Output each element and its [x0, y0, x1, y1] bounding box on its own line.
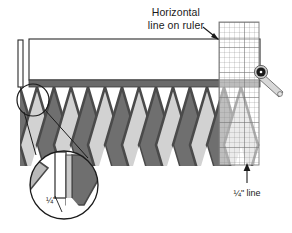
cutter-handle-end — [278, 92, 283, 97]
quarter-inch-line-callout: ¼" line — [233, 163, 260, 198]
zoom-measure-label: ¼" — [46, 195, 56, 205]
figure-svg: Horizontal line on ruler ¼" line — [0, 0, 292, 233]
illustration-canvas: Horizontal line on ruler ¼" line — [0, 0, 292, 233]
horizontal-line-label-line1: Horizontal — [152, 6, 200, 18]
horizontal-line-label-line2: line on ruler — [148, 19, 205, 31]
zoom-diamond-mid — [66, 155, 72, 205]
zoom-seam-allowance — [55, 152, 66, 198]
quarter-inch-line-label: ¼" line — [233, 188, 260, 198]
quilting-ruler — [219, 22, 259, 165]
ruler-grid-lines — [219, 22, 259, 165]
edge-strip — [18, 40, 23, 87]
cutter-hub — [260, 71, 263, 74]
fabric-edge-strip — [18, 40, 23, 87]
horizontal-line-callout: Horizontal line on ruler — [148, 6, 219, 40]
ruler-major-grid — [219, 22, 259, 165]
detail-magnifier: ¼" — [30, 151, 98, 219]
